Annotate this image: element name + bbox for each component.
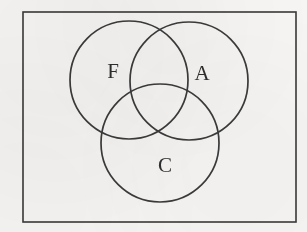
universal-set-rectangle: [23, 12, 296, 222]
set-label-c: C: [158, 153, 172, 177]
set-label-a: A: [194, 61, 210, 85]
set-circle-f: [70, 21, 188, 139]
set-circle-c: [101, 84, 219, 202]
venn-diagram-figure: F A C: [0, 0, 307, 232]
set-label-f: F: [107, 59, 119, 83]
venn-diagram-canvas: F A C: [0, 0, 307, 232]
set-circle-a: [130, 22, 248, 140]
